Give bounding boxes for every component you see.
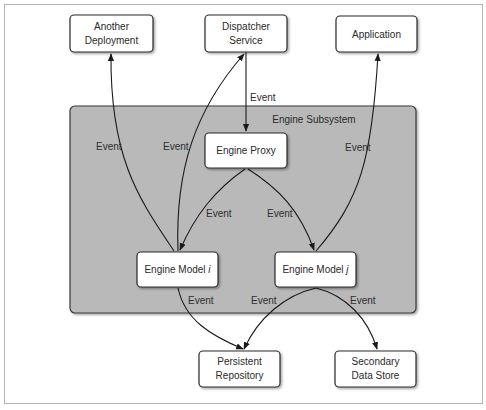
- engine-model-j-name: Engine Model: [282, 264, 343, 275]
- engine-proxy-label: Engine Proxy: [216, 145, 275, 156]
- edge-label-model-i-to-repo: Event: [188, 295, 214, 306]
- engine-subsystem-title: Engine Subsystem: [272, 114, 355, 125]
- another-deployment-line1: Another: [94, 21, 130, 32]
- persistent-repository-line2: Repository: [216, 370, 264, 381]
- application-label: Application: [352, 29, 401, 40]
- secondary-data-store-line2: Data Store: [352, 370, 400, 381]
- edge-label-proxy-to-model-i: Event: [206, 208, 232, 219]
- engine-model-i-label: Engine Model i: [144, 264, 211, 275]
- node-engine-model-i: Engine Model i: [137, 252, 218, 287]
- node-secondary-data-store: Secondary Data Store: [335, 351, 416, 387]
- dispatcher-service-line1: Dispatcher: [222, 21, 270, 32]
- edge-label-model-j-to-store: Event: [350, 295, 376, 306]
- architecture-diagram: Engine Subsystem Event Event Event Event…: [0, 0, 486, 410]
- node-application: Application: [336, 16, 417, 52]
- edge-label-model-j-to-repo: Event: [251, 295, 277, 306]
- edge-label-proxy-to-model-j: Event: [267, 208, 293, 219]
- node-engine-model-j: Engine Model j: [275, 252, 356, 287]
- another-deployment-line2: Deployment: [85, 35, 139, 46]
- edge-label-model-j-to-application: Event: [345, 142, 371, 153]
- edge-label-model-i-to-another: Event: [96, 141, 122, 152]
- node-another-deployment: Another Deployment: [70, 15, 153, 52]
- node-dispatcher-service: Dispatcher Service: [205, 15, 287, 52]
- engine-model-i-name: Engine Model: [144, 264, 205, 275]
- persistent-repository-line1: Persistent: [217, 356, 262, 367]
- edge-label-model-i-to-dispatcher: Event: [163, 141, 189, 152]
- secondary-data-store-line1: Secondary: [352, 356, 400, 367]
- dispatcher-service-line2: Service: [229, 35, 263, 46]
- engine-model-j-label: Engine Model j: [282, 264, 349, 275]
- node-persistent-repository: Persistent Repository: [199, 351, 280, 387]
- node-engine-proxy: Engine Proxy: [205, 133, 287, 168]
- edge-label-dispatcher-to-proxy: Event: [250, 92, 276, 103]
